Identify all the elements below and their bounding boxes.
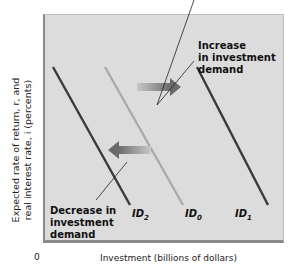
decrease-annotation: Decrease in investment demand xyxy=(50,205,116,241)
increase-annotation: Increase in investment demand xyxy=(198,40,276,76)
id1-label: ID1 xyxy=(235,208,252,222)
y-axis-label: Expected rate of return, r, and real int… xyxy=(10,70,34,230)
id2-label: ID2 xyxy=(132,208,149,222)
decrease-leader-line xyxy=(96,162,127,200)
increase-arrow-icon xyxy=(137,78,181,96)
id1-curve xyxy=(197,67,268,205)
x-axis-label: Investment (billions of dollars) xyxy=(100,253,237,263)
id0-label: ID0 xyxy=(185,208,202,222)
decrease-arrow-icon xyxy=(108,141,151,159)
id2-curve xyxy=(53,67,130,205)
origin-label: 0 xyxy=(34,252,40,262)
